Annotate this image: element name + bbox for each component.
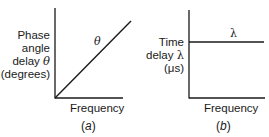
ylabel-text: delay [146, 49, 177, 61]
caption-paren: ) [227, 119, 231, 133]
lambda-symbol: λ [177, 48, 184, 62]
ylabel-line: delay λ [146, 49, 184, 62]
panel-b-curve-label: λ [230, 27, 237, 40]
panel-a-caption: (a) [81, 119, 96, 133]
caption-letter: b [220, 119, 227, 133]
panel-a-y-axis-label: Phase angle delay θ (degrees) [1, 29, 50, 81]
caption-paren: ) [92, 119, 96, 133]
panel-b-x-axis-label: Frequency [204, 102, 258, 115]
panel-a-curve-label: θ [94, 35, 101, 48]
caption-letter: a [85, 119, 92, 133]
panel-a-theta-curve [55, 21, 131, 98]
panel-b-caption: (b) [216, 119, 231, 133]
ylabel-line: (μs) [146, 62, 184, 75]
theta-symbol: θ [43, 54, 50, 68]
ylabel-text: delay [12, 55, 43, 67]
ylabel-line: (degrees) [1, 68, 50, 81]
ylabel-line: Phase [1, 29, 50, 42]
panel-b-y-axis-label: Time delay λ (μs) [146, 36, 184, 75]
ylabel-line: delay θ [1, 55, 50, 68]
panel-a-x-axis-label: Frequency [70, 102, 124, 115]
